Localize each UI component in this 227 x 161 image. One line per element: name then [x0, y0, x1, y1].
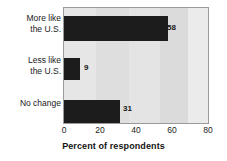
category-label-less-like-us: Less like the U.S. — [0, 55, 61, 76]
category-label-more-like-us: More like the U.S. — [0, 13, 61, 34]
bar-more-like-us — [64, 16, 168, 41]
value-label-no-change: 31 — [123, 105, 132, 113]
bar-less-like-us — [64, 58, 80, 80]
category-label-no-change: No change — [0, 98, 61, 109]
xtick-label-20: 20 — [95, 126, 104, 135]
x-axis-title: Percent of respondents — [0, 142, 227, 151]
xtick-label-60: 60 — [167, 126, 176, 135]
xtick-label-80: 80 — [203, 126, 212, 135]
bar-chart: 58 9 31 More like the U.S. Less like the… — [0, 0, 227, 161]
xtick-label-40: 40 — [131, 126, 140, 135]
bar-no-change — [64, 100, 120, 123]
value-label-less-like-us: 9 — [84, 64, 88, 72]
xtick-label-0: 0 — [62, 126, 67, 135]
background-band — [188, 8, 208, 123]
value-label-more-like-us: 58 — [167, 24, 176, 32]
